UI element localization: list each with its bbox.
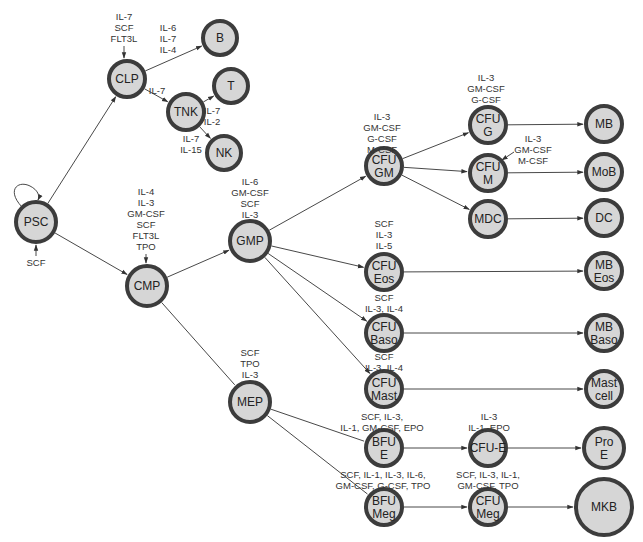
cell-node-mb-baso: MBBaso [586,315,622,351]
edge-cmp-to-mep [162,302,235,384]
edge-cfu-g-to-mb [508,124,583,125]
cytokine-text: IL-1, EPO [468,422,510,433]
cytokine-label-bfu-e: SCF, IL-3,IL-1, GM-CSF, EPO [340,411,423,433]
cell-label: CFU-E [470,441,507,455]
cytokine-label-b: IL-6IL-7IL-4 [160,22,176,55]
cell-label: T [227,79,235,93]
cytokine-text: IL-2 [204,116,220,127]
cytokine-text: IL-3, IL-4 [365,303,403,314]
cytokine-text: IL-6 [160,22,176,33]
cell-node-mob: MoB [586,154,622,190]
cell-label: CMP [134,279,161,293]
cytokine-text: IL-5 [376,240,392,251]
edge-mdc-to-dc [508,218,583,219]
cytokine-label-gmp: IL-6GM-CSFSCFIL-3 [231,176,269,220]
cell-node-t: T [214,69,248,103]
cell-label: E [600,448,608,462]
cytokine-text: IL-3 [138,197,154,208]
cell-node-nk: NK [207,136,241,170]
cell-label: GMP [236,234,263,248]
cytokine-text: GM-CSF [231,187,269,198]
cytokine-text: M-CSF [367,144,397,155]
edge-cfu-gm-to-mdc [402,175,469,209]
cell-node-psc: PSC [16,202,56,242]
cell-label: CFU [372,376,397,390]
cell-label: MoB [592,165,617,179]
cytokine-text: GM-CSF, G-CSF, TPO [336,480,431,491]
cytokine-arrow-cfu-m [502,152,514,160]
cell-label: MB [595,320,613,334]
cell-label: BFU [372,435,396,449]
cytokine-text: TPO [136,241,156,252]
cytokine-text: IL-3 [374,111,390,122]
edge-cmp-to-gmp [167,250,229,277]
cytokine-label-cfu-mast: SCFIL-3, IL-4 [365,351,403,373]
cytokine-label-cfu-g: IL-3GM-CSFG-CSF [467,72,505,105]
cell-node-cmp: CMP [127,266,167,306]
cell-label: E [380,448,388,462]
cytokine-text: IL-7 [116,11,132,22]
cytokine-text: IL-4 [160,44,176,55]
cell-label: Mast [591,376,618,390]
cytokine-text: IL-3, IL-4 [365,362,403,373]
cell-label: CFU [476,160,501,174]
cytokine-labels-layer: IL-7SCFFLT3LIL-6IL-7IL-4IL-7IL-7IL-2IL-7… [27,11,552,491]
edge-tnk-to-t [203,96,213,102]
cell-label: cell [595,389,613,403]
cytokine-text: IL-7 [204,105,220,116]
cell-node-mb-eos: MBEos [586,253,622,289]
cell-node-cfu-baso: CFUBaso [366,315,402,351]
cell-label: NK [216,146,233,160]
cell-label: Meg [372,507,395,521]
cytokine-text: SCF, IL-1, IL-3, IL-6, [340,469,426,480]
cytokine-text: TPO [240,358,260,369]
hematopoiesis-diagram: PSCCLPBTTNKNKCMPGMPCFUGMCFUGCFUMMDCMBMoB… [0,0,643,542]
cell-label: MKB [591,500,617,514]
cytokine-label-tnk: IL-7 [149,85,165,96]
cytokine-text: IL-3 [525,133,541,144]
cell-node-bfu-e: BFUE [366,430,402,466]
cytokine-label-bfu-meg: SCF, IL-1, IL-3, IL-6,GM-CSF, G-CSF, TPO [336,469,431,491]
cytokine-label-cfu-m: IL-3GM-CSFM-CSF [514,133,552,166]
cell-label: CFU [476,112,501,126]
cell-label: MB [595,258,613,272]
cell-node-dc: DC [586,200,622,236]
cytokine-label-cfu-e: IL-3IL-1, EPO [468,411,510,433]
cell-label: Baso [590,333,618,347]
cytokine-text: GM-CSF [467,83,505,94]
cytokine-text: IL-3 [481,411,497,422]
cell-label: Pro [595,435,614,449]
cytokine-text: IL-6 [242,176,258,187]
cytokine-text: SCF [375,292,394,303]
edge-gmp-to-cfu-mast [265,257,370,373]
cytokine-label-nk: IL-7IL-15 [180,133,202,155]
cytokine-text: SCF, IL-3, [361,411,403,422]
cell-node-clp: CLP [109,61,145,97]
cell-node-cfu-e: CFU-E [470,430,507,466]
cell-label: Mast [371,389,398,403]
cell-label: DC [595,211,613,225]
cytokine-text: IL-7 [160,33,176,44]
cell-label: PSC [24,215,49,229]
cell-label: Eos [374,272,395,286]
cytokine-label-clp: IL-7SCFFLT3L [111,11,138,44]
cytokine-text: IL-15 [180,144,202,155]
cytokine-text: IL-3 [242,369,258,380]
cytokine-text: M-CSF [518,155,548,166]
edge-tnk-to-nk [200,127,211,139]
cytokine-text: GM-CSF [127,208,165,219]
cell-label: MB [595,117,613,131]
cytokine-label-cfu-meg: SCF, IL-3, IL-1,GM-CSF, TPO [456,469,520,491]
cytokine-label-cmp: IL-4IL-3GM-CSFSCFFLT3LTPO [127,186,165,252]
cytokine-text: SCF [375,351,394,362]
cell-label: G [483,125,492,139]
cytokine-text: FLT3L [133,230,160,241]
cytokine-text: G-CSF [367,133,397,144]
cytokine-text: GM-CSF [363,122,401,133]
cell-label: TNK [174,105,198,119]
edge-gmp-to-cfu-gm [269,176,365,230]
cytokine-text: IL-7 [149,85,165,96]
cell-node-bfu-meg: BFUMeg [366,489,402,525]
cytokine-text: G-CSF [471,94,501,105]
edge-cfu-m-to-mob [508,172,583,173]
